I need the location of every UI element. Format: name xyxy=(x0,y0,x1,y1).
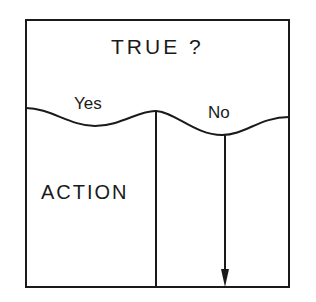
yes-branch-label: Yes xyxy=(74,95,102,112)
action-label: ACTION xyxy=(41,182,129,202)
condition-label: TRUE ? xyxy=(111,36,204,57)
wavy-divider xyxy=(26,108,289,135)
down-arrow-icon xyxy=(221,269,229,287)
no-branch-label: No xyxy=(208,104,230,121)
decision-diagram: TRUE ? Yes No ACTION xyxy=(0,0,316,302)
outer-box xyxy=(26,20,289,287)
